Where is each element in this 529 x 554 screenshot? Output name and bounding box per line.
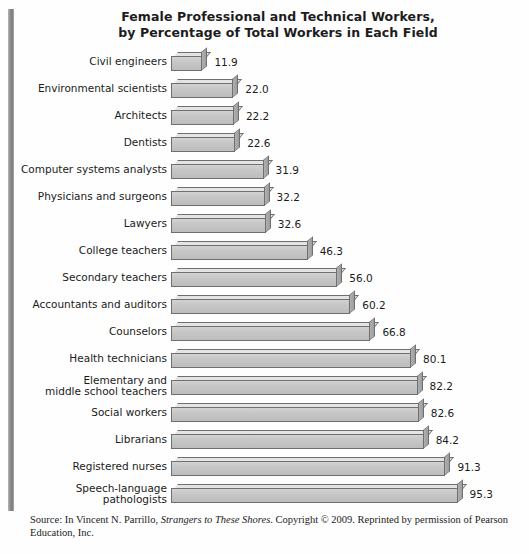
bar-front-face [171,110,234,125]
chart-title: Female Professional and Technical Worker… [34,9,522,41]
bar-category-label: Speech-language pathologists [18,482,167,505]
bar-end-cap [410,344,416,368]
bar-end-cap [349,290,355,314]
bar-value-label: 82.2 [430,380,453,392]
bar-front-face [171,56,202,71]
bar-value-label: 84.2 [436,434,459,446]
bar [171,133,240,152]
bar-value-label: 22.0 [245,83,268,95]
bar [171,160,269,179]
bar [171,484,463,503]
bar [171,403,424,422]
bar-end-cap [201,47,207,71]
bar-category-label: Dentists [18,137,167,149]
bar-end-cap [417,371,423,395]
bar-row: Health technicians80.1 [0,345,529,372]
bar-end-cap [264,182,270,206]
bar-category-label: Social workers [18,407,167,419]
bar [171,241,313,260]
bar-value-label: 91.3 [457,461,480,473]
bar-category-label: Elementary and middle school teachers [18,374,167,397]
bar-category-label: Accountants and auditors [18,299,167,311]
bar-row: Physicians and surgeons32.2 [0,183,529,210]
bar-row: Civil engineers11.9 [0,48,529,75]
bar-row: College teachers46.3 [0,237,529,264]
bar-category-label: Librarians [18,434,167,446]
bar-end-cap [307,236,313,260]
bar-category-label: Architects [18,110,167,122]
bar-end-cap [336,263,342,287]
source-note: Source: In Vincent N. Parrillo, Stranger… [30,513,510,539]
bar-front-face [171,326,370,341]
bar-front-face [171,245,308,260]
bar-value-label: 22.2 [246,110,269,122]
bar-front-face [171,137,235,152]
bar-value-label: 60.2 [362,299,385,311]
source-prefix: Source: In Vincent N. Parrillo, [30,514,161,525]
bar-category-label: Secondary teachers [18,272,167,284]
bar-end-cap [265,209,271,233]
bar-end-cap [369,317,375,341]
bar-category-label: Physicians and surgeons [18,191,167,203]
bar [171,214,271,233]
bar-category-label: Civil engineers [18,56,167,68]
bar-front-face [171,164,264,179]
bar [171,430,429,449]
bar-category-label: Registered nurses [18,461,167,473]
bar [171,349,416,368]
bar-front-face [171,299,350,314]
bar-row: Computer systems analysts31.9 [0,156,529,183]
bar-category-label: Health technicians [18,353,167,365]
bar-end-cap [444,452,450,476]
chart-title-line-2: by Percentage of Total Workers in Each F… [34,25,522,41]
bar-front-face [171,272,337,287]
bar-value-label: 22.6 [247,137,270,149]
bar-row: Social workers82.6 [0,399,529,426]
bar [171,295,355,314]
bar-value-label: 56.0 [349,272,372,284]
bar-front-face [171,461,445,476]
bar-row: Librarians84.2 [0,426,529,453]
bar-front-face [171,488,458,503]
bar [171,106,239,125]
bar-end-cap [423,425,429,449]
bar-end-cap [234,128,240,152]
bar-front-face [171,191,265,206]
bar-row: Lawyers32.6 [0,210,529,237]
bar-front-face [171,434,424,449]
bar-category-label: Computer systems analysts [18,164,167,176]
bar-category-label: Counselors [18,326,167,338]
bar [171,268,342,287]
bar-row: Accountants and auditors60.2 [0,291,529,318]
figure-panel: Female Professional and Technical Worker… [0,0,529,554]
bar-front-face [171,353,411,368]
bar-value-label: 31.9 [276,164,299,176]
bar-front-face [171,407,419,422]
bar-value-label: 95.3 [470,488,493,500]
bar-value-label: 80.1 [423,353,446,365]
bar-value-label: 66.8 [382,326,405,338]
bar [171,79,238,98]
bar [171,52,207,71]
bar-value-label: 46.3 [320,245,343,257]
bar-end-cap [232,74,238,98]
bar-category-label: College teachers [18,245,167,257]
bar-row: Speech-language pathologists95.3 [0,480,529,507]
bar-row: Secondary teachers56.0 [0,264,529,291]
bar-row: Elementary and middle school teachers82.… [0,372,529,399]
bar-value-label: 32.2 [277,191,300,203]
bar-front-face [171,380,418,395]
bar-row: Architects22.2 [0,102,529,129]
bar-value-label: 11.9 [214,56,237,68]
bar-value-label: 82.6 [431,407,454,419]
bar-category-label: Environmental scientists [18,83,167,95]
bar-end-cap [233,101,239,125]
bar [171,187,270,206]
bar-front-face [171,218,266,233]
bar [171,322,375,341]
bar [171,457,450,476]
chart-title-line-1: Female Professional and Technical Worker… [34,9,522,25]
bar-value-label: 32.6 [278,218,301,230]
bar-category-label: Lawyers [18,218,167,230]
bar-front-face [171,83,233,98]
